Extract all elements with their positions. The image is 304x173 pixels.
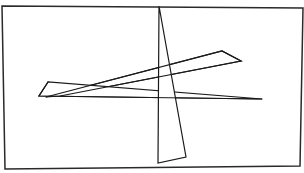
diagram-canvas bbox=[0, 0, 304, 173]
vertical-blade-shape bbox=[158, 6, 186, 163]
